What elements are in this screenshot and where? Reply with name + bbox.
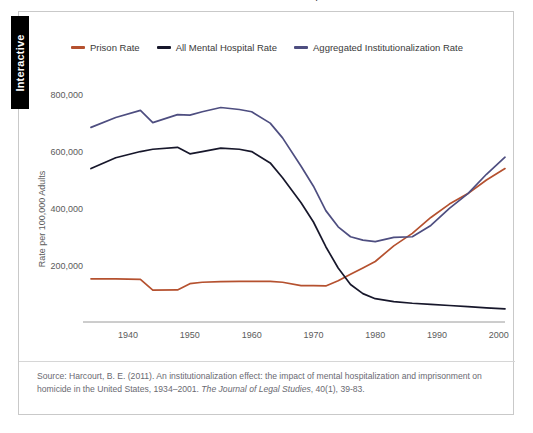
y-tick-label: 600,000 xyxy=(50,147,83,157)
plot-area[interactable]: 200,000400,000600,000800,000 19401950196… xyxy=(19,60,515,350)
legend-swatch-aggregated-icon xyxy=(294,46,308,49)
source-journal-name: The Journal of Legal Studies xyxy=(201,384,310,394)
legend-swatch-mental-hospital-icon xyxy=(157,46,171,49)
source-citation: Source: Harcourt, B. E. (2011). An insti… xyxy=(37,370,499,397)
x-tick-label: 1950 xyxy=(180,330,200,340)
series-line xyxy=(91,108,505,242)
chart-page: Rates of Institutionalization, 1934–2001… xyxy=(0,0,533,433)
source-text-suffix: , 40(1), 39-83. xyxy=(311,384,365,394)
x-tick-label: 1990 xyxy=(427,330,447,340)
series-line xyxy=(91,169,505,291)
page-title-sliver: Rates of Institutionalization, 1934–2001 xyxy=(0,0,533,9)
x-tick-label: 1940 xyxy=(118,330,138,340)
legend-label-mental-hospital: All Mental Hospital Rate xyxy=(176,42,277,53)
x-axis-ticks: 1940195019601970198019902000 xyxy=(118,330,509,340)
y-tick-label: 800,000 xyxy=(50,90,83,100)
chart-card: Prison Rate All Mental Hospital Rate Agg… xyxy=(18,11,514,415)
legend-item-mental-hospital[interactable]: All Mental Hospital Rate xyxy=(157,42,277,53)
y-axis-ticks: 200,000400,000600,000800,000 xyxy=(50,90,83,270)
chart-legend: Prison Rate All Mental Hospital Rate Agg… xyxy=(19,42,515,53)
series-lines xyxy=(91,108,505,309)
y-tick-label: 400,000 xyxy=(50,204,83,214)
legend-label-prison: Prison Rate xyxy=(90,42,140,53)
x-tick-label: 2000 xyxy=(489,330,509,340)
legend-item-prison[interactable]: Prison Rate xyxy=(71,42,140,53)
legend-swatch-prison-icon xyxy=(71,46,85,49)
y-tick-label: 200,000 xyxy=(50,261,83,271)
source-divider xyxy=(19,361,515,362)
legend-label-aggregated: Aggregated Institutionalization Rate xyxy=(313,42,463,53)
x-tick-label: 1960 xyxy=(242,330,262,340)
legend-item-aggregated[interactable]: Aggregated Institutionalization Rate xyxy=(294,42,463,53)
interactive-tab-label: Interactive xyxy=(14,34,26,91)
line-chart-svg[interactable]: 200,000400,000600,000800,000 19401950196… xyxy=(19,60,515,350)
x-tick-label: 1980 xyxy=(365,330,385,340)
y-axis-title: Rate per 100,000 Adults xyxy=(37,170,47,267)
interactive-tab[interactable]: Interactive xyxy=(11,16,29,109)
x-tick-label: 1970 xyxy=(303,330,323,340)
